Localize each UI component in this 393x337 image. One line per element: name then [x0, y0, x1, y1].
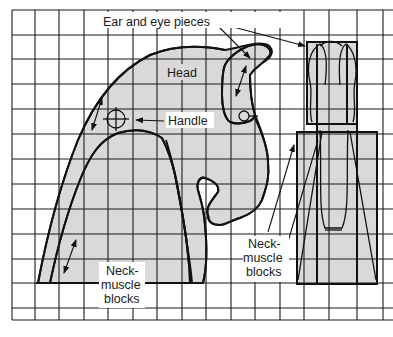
label-neck-right-1: Neck- — [248, 237, 281, 251]
label-head: Head — [167, 66, 197, 80]
label-neck-right-2: muscle — [243, 251, 283, 265]
label-neck-left-1: Neck- — [106, 264, 139, 278]
label-handle: Handle — [168, 114, 208, 128]
ear-eye-pieces-front — [307, 42, 357, 124]
label-neck-right-3: blocks — [246, 265, 281, 279]
horse-head-pattern-diagram: Ear and eye pieces Head Handle Neck- mus… — [0, 0, 393, 337]
label-neck-left-3: blocks — [104, 292, 139, 306]
label-ear-eye-pieces: Ear and eye pieces — [103, 15, 210, 29]
label-neck-left-2: muscle — [101, 278, 141, 292]
